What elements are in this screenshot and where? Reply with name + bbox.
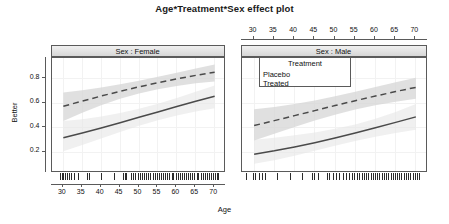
rug-tick: [114, 173, 115, 180]
legend-item-treated: Treated: [263, 79, 289, 88]
rug-tick: [205, 173, 206, 180]
rug-tick: [246, 173, 247, 180]
x-axis-tick: [414, 36, 415, 39]
rug-tick: [140, 173, 141, 180]
x-axis-tick-label: 40: [90, 188, 110, 195]
x-axis-tick: [138, 184, 139, 187]
x-axis-tick: [156, 184, 157, 187]
x-axis-tick-label: 40: [283, 26, 303, 33]
x-axis-tick: [62, 184, 63, 187]
rug-tick: [366, 173, 367, 180]
rug-tick: [138, 173, 139, 180]
rug-tick: [327, 173, 328, 180]
rug-tick: [163, 173, 164, 180]
x-axis-tick: [354, 36, 355, 39]
x-axis-tick-label: 35: [71, 188, 91, 195]
rug-tick: [153, 173, 154, 180]
rug-tick: [142, 173, 143, 180]
rug-tick: [146, 173, 147, 180]
rug-tick: [71, 173, 72, 180]
rug-tick: [312, 173, 313, 180]
rug-tick: [155, 173, 156, 180]
rug-tick: [197, 173, 198, 180]
rug-tick: [159, 173, 160, 180]
rug-tick: [192, 173, 193, 180]
rug-tick: [101, 173, 102, 180]
rug-tick: [184, 173, 185, 180]
rug-tick: [180, 173, 181, 180]
rug-tick: [194, 173, 195, 180]
y-axis-title: Better: [10, 91, 19, 135]
rug-tick: [209, 173, 210, 180]
rug-tick: [388, 173, 389, 180]
rug-tick: [406, 173, 407, 180]
x-axis-tick: [273, 36, 274, 39]
rug-tick: [314, 173, 315, 180]
rug-tick: [373, 173, 374, 180]
rug-tick: [167, 173, 168, 180]
rug-tick: [277, 173, 278, 180]
rug-tick: [410, 173, 411, 180]
rug-tick: [265, 173, 266, 180]
rug-tick: [198, 173, 199, 180]
x-axis-line: [241, 39, 427, 40]
x-axis-tick-label: 70: [404, 26, 424, 33]
rug-tick: [375, 173, 376, 180]
rug-tick: [413, 173, 414, 180]
rug-tick: [343, 173, 344, 180]
rug-tick: [259, 173, 260, 180]
rug-tick: [339, 173, 340, 180]
y-axis-tick: [42, 77, 45, 78]
rug-tick: [133, 173, 134, 180]
rug-tick: [89, 173, 90, 180]
rug-tick: [165, 173, 166, 180]
rug-tick: [371, 173, 372, 180]
rug-tick: [401, 173, 402, 180]
rug-tick: [419, 173, 420, 180]
x-axis-tick: [81, 184, 82, 187]
rug-tick: [393, 173, 394, 180]
y-axis-tick-label: 0.4: [26, 122, 40, 129]
rug-tick: [123, 173, 124, 180]
rug-tick: [417, 173, 418, 180]
rug-tick: [169, 173, 170, 180]
rug-tick: [255, 173, 256, 180]
x-axis-tick-label: 35: [263, 26, 283, 33]
x-axis-tick-label: 60: [364, 26, 384, 33]
rug-tick: [144, 173, 145, 180]
rug-tick: [302, 173, 303, 180]
rug-tick: [87, 173, 88, 180]
axis-decoration: 0.20.40.60.83035404550556065703035404550…: [0, 0, 449, 224]
x-axis-tick-label: 60: [165, 188, 185, 195]
rug-tick: [126, 173, 127, 180]
rug-tick: [364, 173, 365, 180]
rug-tick: [135, 173, 136, 180]
x-axis-tick: [374, 36, 375, 39]
x-axis-tick: [119, 184, 120, 187]
rug-tick: [203, 173, 204, 180]
rug-tick: [74, 173, 75, 180]
x-axis-tick-label: 50: [128, 188, 148, 195]
rug-tick: [148, 173, 149, 180]
y-axis-tick: [42, 102, 45, 103]
x-axis-tick: [253, 36, 254, 39]
y-axis-line: [45, 57, 46, 172]
y-axis-tick-label: 0.2: [26, 146, 40, 153]
rug-tick: [382, 173, 383, 180]
x-axis-tick: [213, 184, 214, 187]
rug-tick: [182, 173, 183, 180]
rug-tick: [253, 173, 254, 180]
rug-tick: [362, 173, 363, 180]
rug-tick: [150, 173, 151, 180]
rug-tick: [336, 173, 337, 180]
rug-tick: [213, 173, 214, 180]
rug-tick: [188, 173, 189, 180]
rug-tick: [329, 173, 330, 180]
rug-tick: [78, 173, 79, 180]
rug-tick: [386, 173, 387, 180]
rug-tick: [399, 173, 400, 180]
y-axis-tick: [42, 151, 45, 152]
x-axis-tick-label: 70: [203, 188, 223, 195]
x-axis-tick: [194, 184, 195, 187]
rug-tick: [173, 173, 174, 180]
